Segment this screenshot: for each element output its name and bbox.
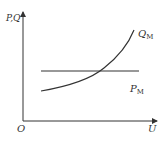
qm-curve	[41, 30, 134, 91]
y-axis-label: P,Q	[5, 13, 21, 23]
economics-diagram: P,Q QM PM O U	[0, 0, 164, 145]
qm-label: QM	[138, 28, 153, 41]
x-axis-label: U	[148, 123, 157, 134]
pm-label: PM	[129, 83, 144, 96]
origin-label: O	[17, 123, 25, 134]
